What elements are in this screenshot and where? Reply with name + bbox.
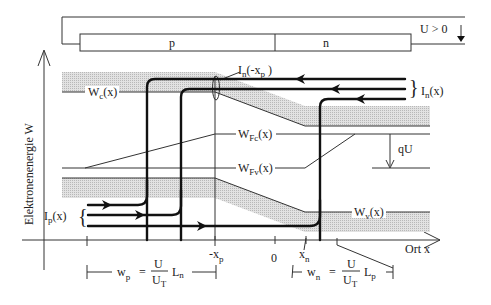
in-xp-label: In(-xp ) bbox=[238, 63, 272, 79]
wn-leader-right bbox=[337, 238, 393, 268]
in-x-label: In(x) bbox=[421, 84, 444, 100]
wp-lhs: wp bbox=[117, 265, 131, 282]
tick-label-minus-xp: -xp bbox=[209, 247, 224, 264]
wp-dimension: wp = U UT Ln bbox=[87, 257, 216, 289]
wfv-line-right bbox=[275, 134, 355, 168]
wp-num: U bbox=[154, 257, 163, 271]
wfv-label: WFv(x) bbox=[238, 161, 273, 177]
qu-label: qU bbox=[398, 142, 413, 156]
circuit-wire bbox=[62, 17, 465, 44]
wn-L: Lp bbox=[364, 265, 376, 281]
wn-den: UT bbox=[343, 273, 358, 289]
wn-eq: = bbox=[329, 265, 336, 279]
tick-label-zero: 0 bbox=[271, 251, 277, 265]
pn-device bbox=[80, 34, 411, 51]
pn-junction-band-diagram: p n U > 0 Elektronenenergie W Ort x -xp … bbox=[0, 0, 491, 305]
wfc-line-left bbox=[85, 134, 236, 168]
wp-L: Ln bbox=[172, 265, 184, 280]
bias-circuit: p n U > 0 bbox=[62, 17, 465, 51]
wn-lhs: wn bbox=[307, 265, 321, 282]
p-region-label: p bbox=[169, 36, 175, 50]
wp-eq: = bbox=[139, 265, 146, 279]
in-x-brace: } bbox=[409, 76, 419, 98]
ip-x-label: Ip(x) bbox=[44, 209, 67, 225]
voltage-arrow-head-icon bbox=[457, 36, 465, 42]
x-axis-label: Ort x bbox=[405, 242, 430, 256]
wn-num: U bbox=[347, 257, 356, 271]
quasi-fermi-levels: WFc(x) WFv(x) qU bbox=[62, 127, 430, 177]
voltage-label: U > 0 bbox=[420, 22, 447, 36]
wp-den: UT bbox=[152, 273, 167, 289]
wfc-label: WFc(x) bbox=[238, 127, 272, 143]
wv-label: Wv(x) bbox=[354, 205, 384, 221]
ip-x-brace: { bbox=[78, 205, 88, 227]
n-region-label: n bbox=[323, 36, 329, 50]
wc-label: Wc(x) bbox=[88, 85, 117, 101]
y-axis-label: Elektronenenergie W bbox=[22, 122, 36, 225]
